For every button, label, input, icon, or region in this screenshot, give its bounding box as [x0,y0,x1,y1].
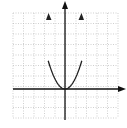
curve-right-arrow-icon [79,13,85,20]
curve-left-arrow-icon [46,13,52,20]
y-axis-arrow-icon [62,1,68,9]
parabola-graph [0,0,127,128]
y-axis [62,1,68,120]
x-axis-arrow-icon [118,86,126,92]
